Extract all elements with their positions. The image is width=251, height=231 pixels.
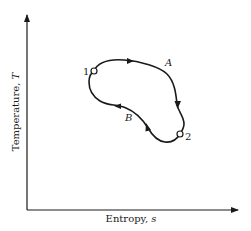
path-a-label: A [164, 57, 172, 68]
path-a [94, 60, 184, 134]
cycle-curve [89, 58, 184, 142]
state-2-marker [177, 131, 183, 137]
ts-diagram: Temperature, T Entropy, s 1 2 A B [0, 0, 251, 231]
state-1-label: 1 [83, 66, 89, 77]
y-axis-label: Temperature, T [10, 71, 21, 151]
state-2-label: 2 [185, 131, 191, 142]
arrow-down-icon [175, 101, 182, 109]
path-b-label: B [124, 112, 132, 123]
axes [27, 15, 238, 210]
path-b [89, 71, 180, 142]
arrow-left-icon [114, 104, 121, 110]
arrow-right-icon [127, 58, 134, 64]
x-axis-label: Entropy, s [106, 213, 157, 224]
state-1-marker [91, 68, 97, 74]
